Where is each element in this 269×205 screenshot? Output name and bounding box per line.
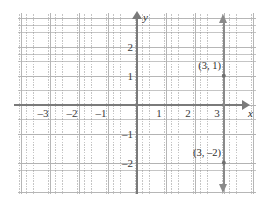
y-axis-label: y <box>143 11 148 23</box>
x-tick-label: –3 <box>38 107 49 119</box>
x-axis-line <box>14 104 245 106</box>
data-point-label: (3, –2) <box>193 147 221 158</box>
plot-line-arrow-down-icon <box>219 184 227 193</box>
y-tick-label: –2 <box>119 157 133 169</box>
y-axis-arrow-icon <box>132 11 142 19</box>
y-tick-label: 1 <box>119 70 133 82</box>
x-tick-label: 1 <box>156 107 162 119</box>
y-tick-label: –1 <box>119 128 133 140</box>
x-tick-label: 3 <box>214 107 220 119</box>
coordinate-plane-figure: x y –3–2–112321–1–2 (3, 1)(3, –2) <box>0 0 269 205</box>
y-tick-label: 2 <box>119 41 133 53</box>
x-axis-label: x <box>248 107 253 119</box>
x-tick-label: –2 <box>67 107 78 119</box>
data-point-label: (3, 1) <box>198 60 221 71</box>
y-axis-line <box>136 16 138 194</box>
plot-line-arrow-up-icon <box>219 14 227 23</box>
x-tick-label: 2 <box>185 107 191 119</box>
x-tick-label: –1 <box>96 107 107 119</box>
